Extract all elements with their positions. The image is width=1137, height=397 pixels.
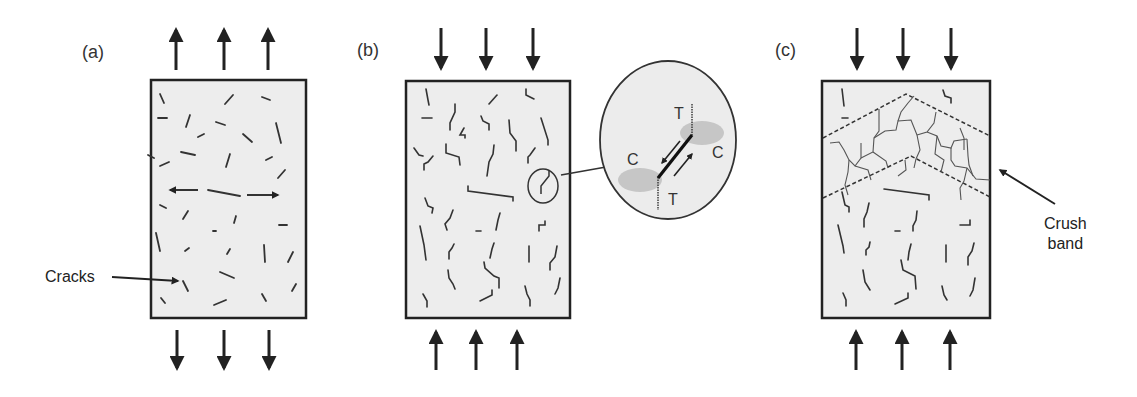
magnifier-label-t-top: T	[674, 105, 684, 123]
compression-arrows-top-b	[441, 28, 533, 68]
panel-a-label: (a)	[82, 42, 104, 63]
tension-arrows-top	[176, 30, 268, 70]
panel-a	[112, 30, 306, 368]
compression-arrows-top-c	[857, 28, 951, 68]
specimen-b	[406, 81, 570, 318]
tension-arrows-bottom	[177, 330, 269, 368]
compression-arrows-bottom-b	[436, 332, 517, 370]
compression-arrows-bottom-c	[856, 332, 950, 370]
crush-band-label-line2: band	[1044, 234, 1087, 254]
panel-c	[822, 28, 1055, 370]
magnifier-label-c-right: C	[712, 144, 724, 162]
crush-band-label: Crush band	[1044, 214, 1087, 254]
crush-band-label-line1: Crush	[1044, 214, 1087, 234]
compression-zone-left	[618, 168, 662, 192]
panel-b-label: (b)	[357, 40, 379, 61]
cracks-label: Cracks	[45, 267, 95, 287]
panel-c-label: (c)	[775, 40, 796, 61]
specimen-c	[822, 81, 990, 318]
magnifier-label-t-bottom: T	[668, 191, 678, 209]
magnifier-label-c-left: C	[627, 151, 639, 169]
specimen-a	[151, 80, 306, 318]
figure-canvas	[0, 0, 1137, 397]
crush-band-pointer-arrow	[1000, 170, 1055, 204]
panel-b	[406, 28, 736, 370]
